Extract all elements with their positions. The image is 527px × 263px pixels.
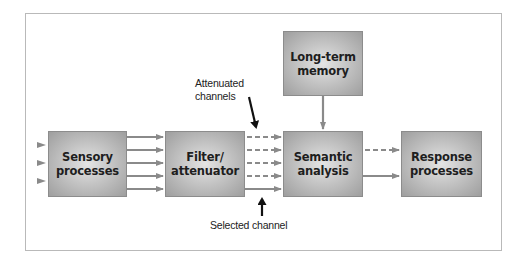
sensory-label-line1: Sensory: [56, 150, 119, 164]
memory-label-line1: Long-term: [290, 50, 356, 64]
attenuated-channels-label: Attenuated channels: [195, 77, 244, 103]
selected-channel-label: Selected channel: [210, 219, 287, 232]
attenuated-label-line1: Attenuated: [195, 77, 244, 90]
filter-label-line1: Filter/: [171, 150, 239, 164]
sensory-label-line2: processes: [56, 164, 119, 178]
semantic-label-line1: Semantic: [294, 150, 353, 164]
selected-label-text: Selected channel: [210, 219, 287, 231]
long-term-memory-node: Long-term memory: [283, 31, 363, 96]
filter-attenuator-node: Filter/ attenuator: [165, 131, 245, 197]
response-processes-node: Response processes: [401, 131, 482, 197]
response-label-line2: processes: [410, 164, 473, 178]
sensory-to-filter-arrows: [127, 137, 163, 189]
attenuated-pointer-arrow: [249, 97, 256, 127]
filter-label-line2: attenuator: [171, 164, 239, 178]
attenuated-channel-arrows: [247, 137, 281, 176]
memory-label-line2: memory: [290, 64, 356, 78]
sensory-processes-node: Sensory processes: [48, 131, 127, 197]
semantic-label-line2: analysis: [294, 164, 353, 178]
semantic-to-response-arrows: [363, 150, 399, 176]
semantic-analysis-node: Semantic analysis: [283, 131, 363, 197]
input-arrows: [37, 142, 46, 184]
response-label-line1: Response: [410, 150, 473, 164]
attenuated-label-line2: channels: [195, 90, 244, 103]
